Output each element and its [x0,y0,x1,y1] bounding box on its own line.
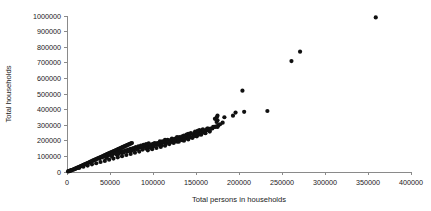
data-point [103,159,107,163]
y-tick-label: 200000 [37,136,61,145]
data-point [146,148,150,152]
data-point [289,59,293,63]
x-tick-label: 250000 [270,178,294,187]
y-tick-label: 300000 [37,121,61,130]
x-tick-label: 300000 [313,178,337,187]
data-point [265,109,269,113]
data-point [242,110,246,114]
data-point [154,146,158,150]
data-point [214,125,218,129]
data-point [374,15,378,19]
data-point [177,140,181,144]
x-tick-label: 400000 [399,178,423,187]
data-point [159,145,163,149]
data-point [98,160,102,164]
data-point [67,169,71,173]
data-point [187,135,191,139]
data-point [94,161,98,165]
scatter-chart: 0100000200000300000400000500000600000700… [0,0,431,211]
y-tick-label: 800000 [37,43,61,52]
data-point [222,115,226,119]
y-tick-label: 1000000 [33,12,61,21]
y-tick-label: 700000 [37,58,61,67]
data-point [221,121,225,125]
chart-canvas: 0100000200000300000400000500000600000700… [0,0,431,211]
data-point [163,144,167,148]
x-tick-label: 0 [65,178,69,187]
data-point [129,152,133,156]
y-tick-label: 900000 [37,27,61,36]
data-point [77,166,81,170]
x-tick-label: 200000 [227,178,251,187]
data-point [120,154,124,158]
x-axis-title: Total persons in households [192,195,286,204]
data-point [86,164,90,168]
data-point [182,137,186,141]
y-tick-label: 400000 [37,105,61,114]
data-point [215,120,219,124]
data-point [107,158,111,162]
data-point [150,147,154,151]
data-point [73,167,77,171]
data-point [172,141,176,145]
y-tick-label: 0 [57,168,61,177]
data-point [111,156,115,160]
data-point [298,50,302,54]
data-point [124,153,128,157]
data-point [167,142,171,146]
data-point [133,151,137,155]
data-points-group [66,15,378,173]
x-tick-label: 50000 [100,178,120,187]
y-tick-label: 500000 [37,90,61,99]
y-axis-title: Total households [4,65,13,122]
data-point [208,128,212,132]
data-point [116,155,120,159]
x-tick-label: 100000 [141,178,165,187]
data-point [81,165,85,169]
data-point [233,110,237,114]
y-tick-label: 600000 [37,74,61,83]
x-tick-label: 150000 [184,178,208,187]
data-point [137,149,141,153]
data-point [196,129,200,133]
data-point [130,141,134,145]
data-point [240,89,244,93]
y-tick-label: 100000 [37,152,61,161]
x-axis-ticks: 0500001000001500002000002500003000003500… [65,172,423,187]
data-point [90,162,94,166]
x-tick-label: 350000 [356,178,380,187]
data-point [202,129,206,133]
y-axis-ticks: 0100000200000300000400000500000600000700… [33,12,67,177]
data-point [215,114,219,118]
